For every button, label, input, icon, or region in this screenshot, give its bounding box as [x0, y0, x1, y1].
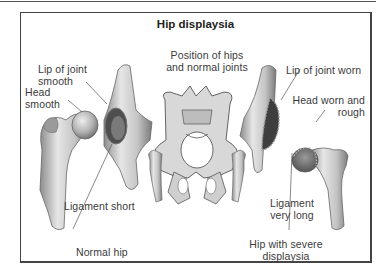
label-ligament-long-line-2: very long	[262, 209, 322, 221]
label-head-smooth-line-1: Head	[25, 86, 60, 98]
normal-acetabulum	[104, 65, 152, 190]
label-head-worn-line-1: Head worn and	[292, 94, 365, 106]
center-caption: Position of hips and normal joints	[152, 49, 262, 73]
label-head-worn-line-2: rough	[292, 106, 365, 118]
figure-title: Hip displaysia	[0, 18, 391, 30]
label-ligament-long: Ligament very long	[262, 197, 322, 221]
center-caption-line-2: and normal joints	[152, 61, 262, 73]
label-head-smooth: Head smooth	[25, 86, 60, 110]
center-caption-line-1: Position of hips	[152, 49, 262, 61]
label-head-smooth-line-2: smooth	[25, 98, 60, 110]
caption-normal-hip: Normal hip	[76, 246, 128, 258]
label-ligament-long-line-1: Ligament	[262, 197, 322, 209]
label-ligament-short: Ligament short	[64, 200, 135, 212]
label-lip-smooth-line-1: Lip of joint	[38, 63, 87, 75]
caption-severe-line-2: displaysia	[236, 250, 336, 262]
label-lip-smooth: Lip of joint smooth	[38, 63, 87, 87]
caption-severe-line-1: Hip with severe	[236, 238, 336, 250]
label-head-worn: Head worn and rough	[292, 94, 365, 118]
label-lip-worn: Lip of joint worn	[286, 64, 361, 76]
hip-illustration	[0, 0, 391, 275]
caption-severe-displaysia: Hip with severe displaysia	[236, 238, 336, 262]
pelvis	[149, 86, 246, 204]
dysplastic-acetabulum	[240, 65, 279, 172]
